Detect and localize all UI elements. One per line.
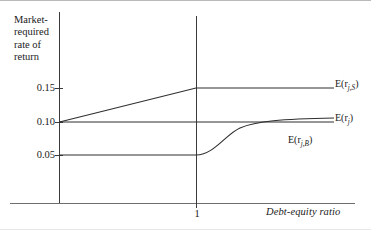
series-label-debt-close: ) <box>309 134 312 145</box>
figure-container: 0.15 0.10 0.05 1 Market-required rate of… <box>0 0 371 230</box>
series-label-firm-close: ) <box>350 112 353 123</box>
series-label-firm-base: E(r <box>335 112 348 123</box>
series-label-levered-equity-base: E(r <box>335 78 348 89</box>
series-label-firm: E(rj) <box>335 112 353 128</box>
series-label-levered-equity: E(rj,S) <box>335 78 359 94</box>
series-label-debt-base: E(r <box>288 134 301 145</box>
series-label-debt: E(rj,B) <box>288 134 312 150</box>
plot-area <box>0 0 371 230</box>
series-line-levered-equity <box>60 88 335 122</box>
series-label-levered-equity-close: ) <box>355 78 358 89</box>
series-label-debt-sub: j,B <box>301 140 309 148</box>
